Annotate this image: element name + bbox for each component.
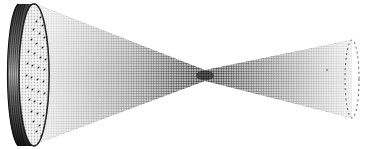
focal-point-marker xyxy=(196,71,214,81)
illustration-canvas xyxy=(0,0,382,149)
disc-emitter xyxy=(0,0,49,149)
beam-focus-illustration: Halftone illustration of a focused beam:… xyxy=(0,0,382,149)
far-field-speck xyxy=(326,69,328,71)
